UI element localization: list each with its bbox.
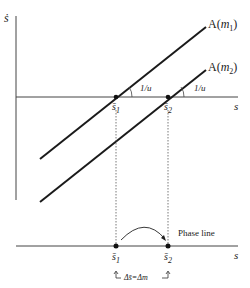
equilibrium-label-1: s̄1 bbox=[112, 252, 120, 265]
y-axis-label: ṡ bbox=[4, 12, 9, 24]
bracket-left bbox=[114, 271, 121, 278]
shift-arrow bbox=[121, 227, 165, 240]
x-axis-label-bottom: s bbox=[234, 250, 238, 261]
phase-line-label: Phase line bbox=[178, 229, 215, 238]
equilibrium-label-2-top: s̄2 bbox=[164, 102, 172, 115]
equilibrium-label-1-top: s̄1 bbox=[112, 102, 120, 115]
equilibrium-point-1 bbox=[114, 244, 119, 249]
curve-a-m1 bbox=[40, 27, 206, 159]
equilibrium-point-2-top bbox=[166, 95, 171, 100]
curve-a-m2 bbox=[40, 70, 206, 202]
slope-label-2: 1/u bbox=[194, 84, 206, 93]
curve-label-a-m2: A(m2) bbox=[208, 61, 237, 76]
shift-label: Δs̄=Δm bbox=[124, 274, 148, 282]
slope-label-1: 1/u bbox=[140, 84, 152, 93]
phase-diagram bbox=[0, 0, 250, 288]
equilibrium-label-2: s̄2 bbox=[164, 252, 172, 265]
curve-label-a-m1: A(m1) bbox=[208, 18, 237, 33]
equilibrium-point-2 bbox=[166, 244, 171, 249]
x-axis-label-top: s bbox=[234, 101, 238, 112]
equilibrium-point-1-top bbox=[114, 95, 119, 100]
bracket-right bbox=[162, 271, 170, 278]
